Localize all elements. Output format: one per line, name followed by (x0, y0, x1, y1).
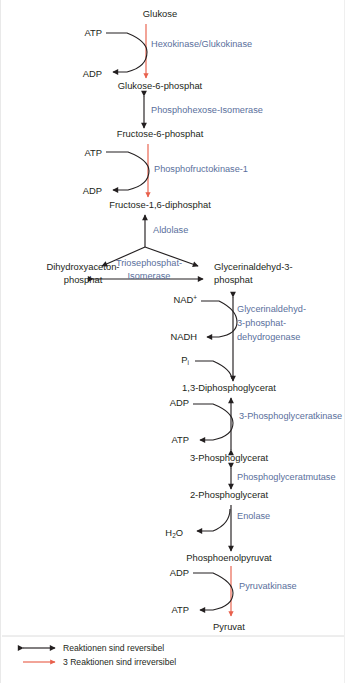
enzyme-pyruvatkinase: Pyruvatkinase (239, 581, 297, 591)
cofactor-nad-base: NAD (173, 294, 193, 305)
cofactor-labels: ATP ADP ATP ADP NAD+ NADH Pi ADP ATP H2O… (83, 27, 198, 615)
glycolysis-pathway-diagram: Glukose Glukose-6-phosphat Fructose-6-ph… (1, 0, 345, 683)
legend-label-reversible: Reaktionen sind reversibel (63, 643, 164, 653)
enzyme-aldolase: Aldolase (153, 225, 188, 235)
cofactor-atp-2: ATP (84, 147, 102, 158)
cofactor-pi-subscript: i (188, 359, 189, 366)
enzyme-gapdh-line1: Glycerinaldehyd- (237, 304, 306, 314)
legend: Reaktionen sind reversibel 3 Reaktionen … (2, 636, 345, 667)
enzyme-gapdh-line2: 3-phosphat- (237, 318, 286, 328)
enzyme-triosephosphat-isomerase-line2: Isomerase (128, 271, 171, 281)
reaction-phosphoglyceratkinase (193, 398, 233, 450)
cofactor-atp-1: ATP (84, 27, 102, 38)
reaction-pyruvatkinase (193, 566, 233, 616)
cofactor-adp-1: ADP (83, 68, 102, 79)
enzyme-phosphoglyceratmutase: Phosphoglyceratmutase (237, 472, 336, 482)
enzyme-phosphohexose-isomerase: Phosphohexose-Isomerase (151, 105, 263, 115)
cofactor-nad-plus: NAD+ (173, 294, 197, 305)
metabolite-dihydroxyacetonphosphat-line2: phosphat (64, 274, 103, 285)
cofactor-nadh: NADH (170, 331, 197, 342)
cofactor-atp-3: ATP (171, 434, 189, 445)
cofactor-adp-3: ADP (170, 397, 189, 408)
cofactor-water-h: H (165, 527, 172, 538)
cofactor-nad-superscript: + (193, 294, 197, 301)
enzyme-phosphofructokinase-1: Phosphofructokinase-1 (154, 164, 248, 174)
metabolite-fructose-6-phosphat: Fructose-6-phosphat (117, 128, 204, 139)
metabolite-1-3-diphosphoglycerat: 1,3-Diphosphoglycerat (182, 382, 276, 393)
legend-item-reversible: Reaktionen sind reversibel (23, 643, 164, 653)
metabolite-dihydroxyacetonphosphat-line1: Dihydroxyaceton- (47, 261, 120, 272)
reaction-hexokinase (106, 24, 147, 78)
metabolite-pyruvat: Pyruvat (213, 621, 245, 632)
cofactor-curve-water-out (197, 509, 230, 531)
cofactor-curve-atp-adp-2 (106, 152, 149, 190)
metabolite-glukose: Glukose (143, 8, 177, 19)
enzyme-3-phosphoglyceratkinase: 3-Phosphoglyceratkinase (239, 411, 342, 421)
cofactor-adp-4: ADP (170, 567, 189, 578)
enzyme-triosephosphat-isomerase-line1: Triosephosphat- (116, 258, 182, 268)
metabolite-2-phosphoglycerat: 2-Phosphoglycerat (190, 489, 269, 500)
metabolite-glycerinaldehyd-3-phosphat-line1: Glycerinaldehyd-3- (214, 261, 293, 272)
figure-canvas: Glukose Glukose-6-phosphat Fructose-6-ph… (0, 0, 345, 683)
cofactor-atp-4: ATP (171, 604, 189, 615)
metabolite-phosphoenolpyruvat: Phosphoenolpyruvat (186, 552, 272, 563)
cofactor-curve-adp-atp-3 (193, 404, 233, 440)
enzyme-gapdh-line3: dehydrogenase (237, 332, 300, 342)
legend-label-irreversible: 3 Reaktionen sind irreversibel (63, 657, 176, 667)
metabolite-glycerinaldehyd-3-phosphat-line2: phosphat (214, 274, 253, 285)
metabolite-fructose-1-6-diphosphat: Fructose-1,6-diphosphat (109, 199, 211, 210)
reaction-gapdh (195, 297, 237, 381)
cofactor-phosphate-inorganic: Pi (181, 354, 189, 366)
cofactor-curve-nad-nadh (201, 301, 237, 337)
metabolite-glukose-6-phosphat: Glukose-6-phosphat (118, 80, 203, 91)
cofactor-curve-adp-atp-4 (193, 573, 233, 610)
enzyme-hexokinase-glukokinase: Hexokinase/Glukokinase (151, 39, 252, 49)
metabolite-3-phosphoglycerat: 3-Phosphoglycerat (190, 452, 269, 463)
reaction-enolase (197, 505, 231, 551)
cofactor-adp-2: ADP (83, 185, 102, 196)
enzyme-enolase: Enolase (237, 511, 270, 521)
cofactor-water-o: O (176, 527, 183, 538)
legend-item-irreversible: 3 Reaktionen sind irreversibel (23, 657, 176, 667)
enzyme-labels: Hexokinase/Glukokinase Phosphohexose-Iso… (116, 39, 342, 591)
reaction-phosphofructokinase-1 (106, 144, 149, 197)
cofactor-water: H2O (165, 527, 183, 539)
cofactor-curve-atp-adp-1 (106, 33, 147, 72)
cofactor-curve-phosphate-in (195, 361, 232, 379)
